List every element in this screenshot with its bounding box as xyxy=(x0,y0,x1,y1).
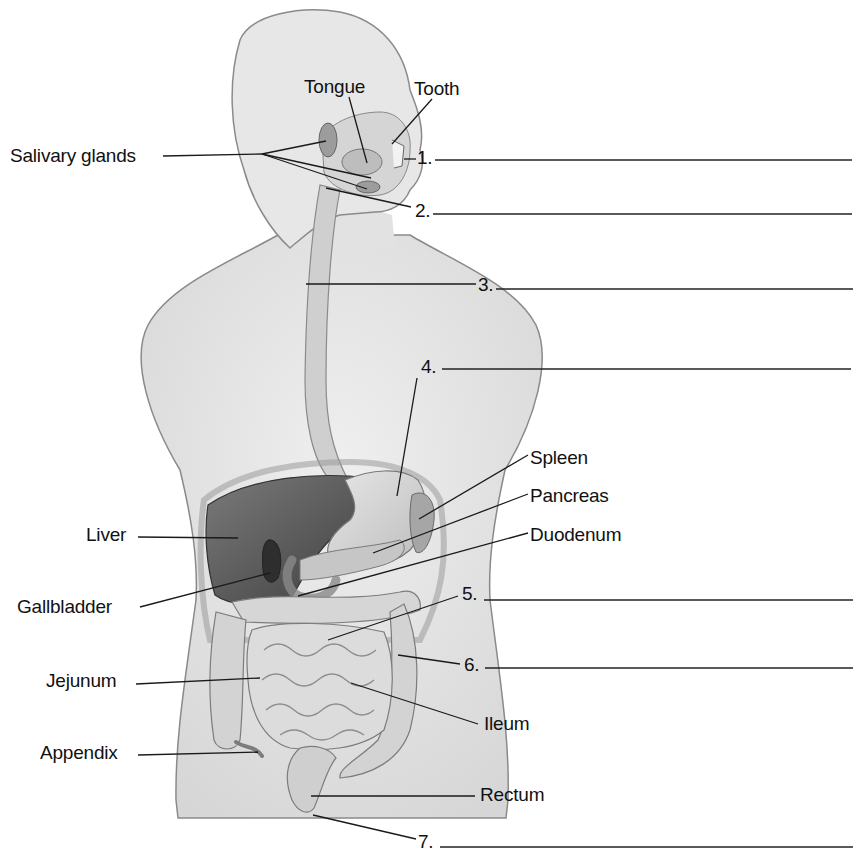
label-gallbladder: Gallbladder xyxy=(17,597,112,616)
label-rectum: Rectum xyxy=(480,785,544,804)
label-liver: Liver xyxy=(86,525,126,544)
blank-number-2: 2. xyxy=(415,201,430,220)
parotid-gland xyxy=(319,123,337,157)
label-appendix: Appendix xyxy=(40,743,118,762)
label-tongue: Tongue xyxy=(304,77,365,96)
body-illustration xyxy=(0,0,861,858)
tongue-shape xyxy=(342,149,382,175)
blank-number-3: 3. xyxy=(478,275,493,294)
gallbladder-shape xyxy=(263,540,281,582)
small-intestine xyxy=(247,623,392,749)
label-tooth: Tooth xyxy=(414,79,459,98)
label-pancreas: Pancreas xyxy=(530,486,609,505)
blank-number-5: 5. xyxy=(462,584,477,603)
blank-number-6: 6. xyxy=(464,655,479,674)
label-salivary-glands: Salivary glands xyxy=(10,146,136,165)
blank-number-4: 4. xyxy=(421,357,436,376)
label-spleen: Spleen xyxy=(530,448,588,467)
label-jejunum: Jejunum xyxy=(46,671,116,690)
blank-number-7: 7. xyxy=(418,832,433,851)
blank-number-1: 1. xyxy=(417,148,432,167)
label-ileum: Ileum xyxy=(484,714,529,733)
label-duodenum: Duodenum xyxy=(530,525,621,544)
digestive-system-diagram: TongueToothSalivary glandsSpleenPancreas… xyxy=(0,0,861,858)
